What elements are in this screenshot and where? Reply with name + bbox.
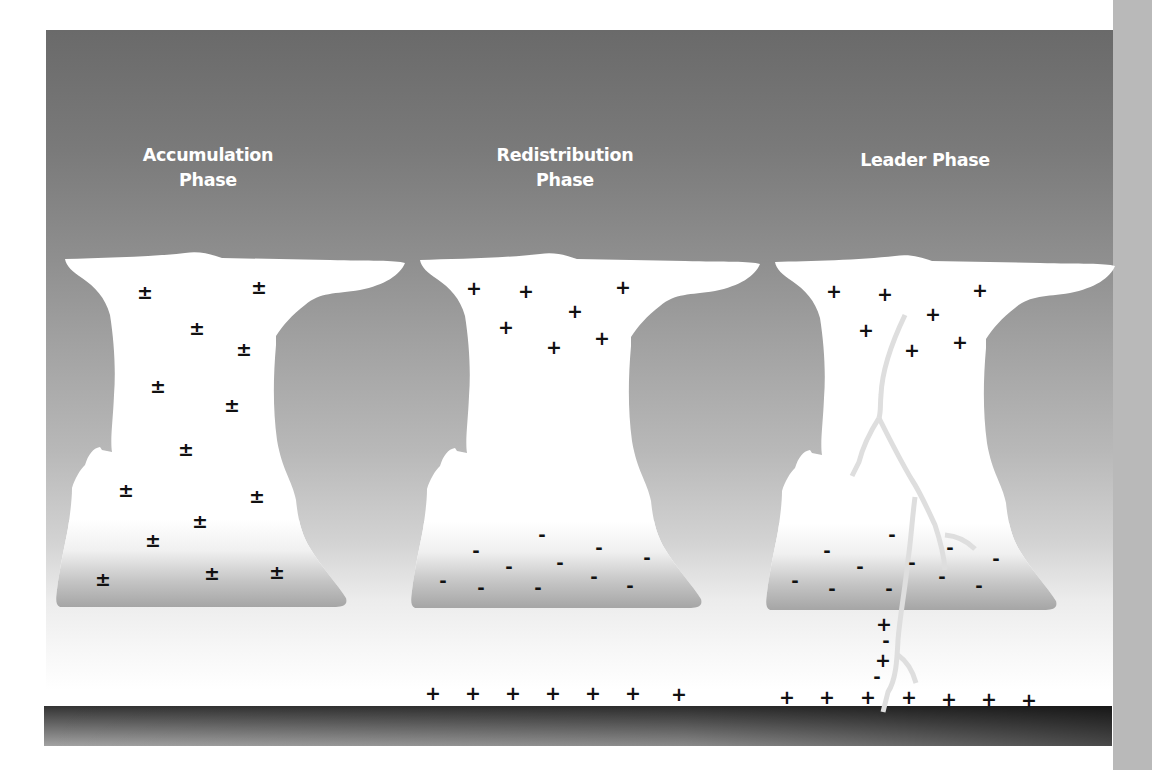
cloud-charge-negative-symbol: - (472, 542, 479, 560)
ground-charge-positive-symbol: + (545, 684, 561, 703)
cloud-charge-positive-symbol: + (858, 321, 874, 340)
cloud-charge-positive-symbol: + (972, 281, 988, 300)
ground-charge-positive-symbol: + (625, 684, 641, 703)
ground-surface (44, 706, 1112, 746)
ground-charge-positive-symbol: + (779, 688, 795, 707)
phase-title-redistribution: Redistribution Phase (480, 143, 650, 193)
cloud-charge-positive-symbol: + (904, 341, 920, 360)
channel-charge-negative-symbol: - (882, 632, 889, 650)
cloud-charge-negative-symbol: - (975, 577, 982, 595)
ground-charge-positive-symbol: + (941, 690, 957, 709)
thunderstorm-diagram (0, 0, 1152, 770)
cloud-charge-plus-minus-symbol: ± (224, 396, 240, 415)
cloud-charge-negative-symbol: - (534, 579, 541, 597)
cloud-charge-negative-symbol: - (538, 526, 545, 544)
cloud-charge-plus-minus-symbol: ± (145, 531, 161, 550)
ground-charge-positive-symbol: + (671, 685, 687, 704)
cloud-charge-negative-symbol: - (856, 558, 863, 576)
ground-charge-positive-symbol: + (860, 688, 876, 707)
cloud-charge-positive-symbol: + (615, 278, 631, 297)
cloud-charge-positive-symbol: + (518, 282, 534, 301)
cloud-charge-negative-symbol: - (791, 572, 798, 590)
channel-charge-negative-symbol: - (873, 668, 880, 686)
cloud-charge-plus-minus-symbol: ± (137, 283, 153, 302)
phase-title-accumulation: Accumulation Phase (128, 143, 288, 193)
cloud-charge-negative-symbol: - (595, 539, 602, 557)
ground-charge-positive-symbol: + (981, 690, 997, 709)
cloud-charge-positive-symbol: + (498, 318, 514, 337)
ground-charge-positive-symbol: + (585, 684, 601, 703)
cloud-charge-plus-minus-symbol: ± (189, 319, 205, 338)
cloud-charge-plus-minus-symbol: ± (178, 440, 194, 459)
cloud-charge-negative-symbol: - (885, 580, 892, 598)
cloud-charge-plus-minus-symbol: ± (204, 564, 220, 583)
ground-charge-positive-symbol: + (425, 684, 441, 703)
cloud-charge-positive-symbol: + (466, 279, 482, 298)
cloud-charge-plus-minus-symbol: ± (251, 278, 267, 297)
ground-charge-positive-symbol: + (819, 688, 835, 707)
cloud-charge-positive-symbol: + (952, 333, 968, 352)
cloud-charge-positive-symbol: + (826, 282, 842, 301)
cloud-charge-plus-minus-symbol: ± (269, 563, 285, 582)
cloud-charge-positive-symbol: + (546, 338, 562, 357)
cloud-charge-plus-minus-symbol: ± (236, 340, 252, 359)
cloud-charge-negative-symbol: - (590, 568, 597, 586)
cloud-charge-plus-minus-symbol: ± (150, 377, 166, 396)
ground-charge-positive-symbol: + (465, 684, 481, 703)
cloud-charge-plus-minus-symbol: ± (95, 570, 111, 589)
cloud-charge-negative-symbol: - (439, 572, 446, 590)
phase-title-leader: Leader Phase (840, 148, 1010, 173)
cloud-charge-negative-symbol: - (823, 542, 830, 560)
cloud-charge-negative-symbol: - (908, 554, 915, 572)
cloud-charge-plus-minus-symbol: ± (192, 512, 208, 531)
cloud-charge-negative-symbol: - (946, 539, 953, 557)
cloud-charge-plus-minus-symbol: ± (249, 487, 265, 506)
cloud-charge-positive-symbol: + (877, 285, 893, 304)
ground-charge-positive-symbol: + (1021, 691, 1037, 710)
cloud-charge-plus-minus-symbol: ± (118, 481, 134, 500)
cloud-charge-negative-symbol: - (556, 554, 563, 572)
cloud-accumulation-phase (40, 252, 405, 610)
cloud-charge-negative-symbol: - (643, 549, 650, 567)
cloud-charge-negative-symbol: - (828, 580, 835, 598)
cloud-charge-positive-symbol: + (594, 329, 610, 348)
cloud-charge-positive-symbol: + (567, 302, 583, 321)
cloud-charge-positive-symbol: + (925, 305, 941, 324)
cloud-charge-negative-symbol: - (626, 577, 633, 595)
cloud-charge-negative-symbol: - (477, 579, 484, 597)
cloud-charge-negative-symbol: - (938, 568, 945, 586)
cloud-charge-negative-symbol: - (505, 558, 512, 576)
ground-charge-positive-symbol: + (901, 688, 917, 707)
cloud-charge-negative-symbol: - (888, 526, 895, 544)
cloud-charge-negative-symbol: - (992, 550, 999, 568)
ground-charge-positive-symbol: + (505, 684, 521, 703)
